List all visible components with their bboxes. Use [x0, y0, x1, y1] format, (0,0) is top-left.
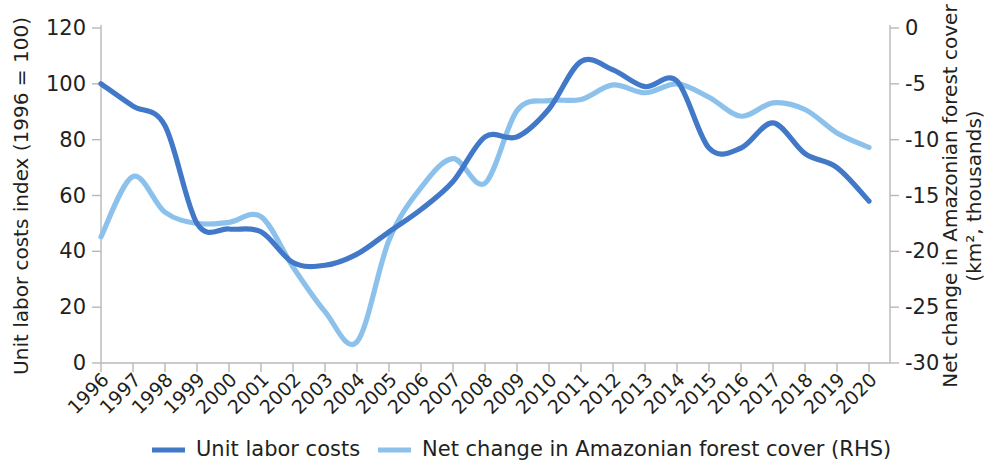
right-axis-title-line1: Net change in Amazonian forest cover: [938, 4, 962, 388]
left-axis-ticks: 020406080100120: [46, 16, 101, 375]
left-tick-label: 60: [59, 184, 86, 208]
chart-legend: Unit labor costsNet change in Amazonian …: [152, 437, 891, 461]
left-axis-title: Unit labor costs index (1996 = 100): [9, 17, 33, 375]
right-tick-label: -15: [905, 184, 939, 208]
right-tick-label: -20: [905, 239, 939, 263]
line-chart: Unit labor costs index (1996 = 100) Net …: [0, 0, 996, 466]
right-tick-label: -30: [905, 351, 939, 375]
x-axis-ticks: 1996199719981999200020012002200320042005…: [63, 363, 881, 418]
right-axis-title-line2: (km², thousands): [962, 110, 986, 281]
left-tick-label: 20: [59, 295, 86, 319]
right-tick-label: -25: [905, 295, 939, 319]
left-tick-label: 120: [46, 16, 86, 40]
series-line-forest-cover: [101, 84, 869, 345]
series-layer: [101, 59, 869, 344]
left-tick-label: 40: [59, 239, 86, 263]
right-tick-label: -10: [905, 128, 939, 152]
left-tick-label: 0: [73, 351, 86, 375]
left-tick-label: 100: [46, 72, 86, 96]
right-tick-label: -5: [905, 72, 926, 96]
right-axis-ticks: -30-25-20-15-10-50: [890, 16, 939, 375]
legend-label-forest-cover: Net change in Amazonian forest cover (RH…: [422, 437, 891, 461]
left-tick-label: 80: [59, 128, 86, 152]
chart-container: Unit labor costs index (1996 = 100) Net …: [0, 0, 996, 466]
series-line-unit-labor-costs: [101, 59, 869, 266]
right-tick-label: 0: [905, 16, 918, 40]
legend-label-unit-labor-costs: Unit labor costs: [196, 437, 360, 461]
